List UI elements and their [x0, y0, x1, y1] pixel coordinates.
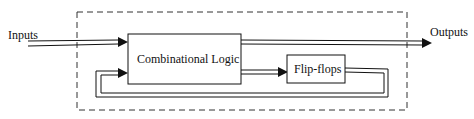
outputs-label: Outputs	[430, 25, 468, 39]
sequential-circuit-diagram: Inputs Combinational Logic Outputs Flip-…	[0, 0, 474, 119]
inputs-arrow	[28, 37, 128, 47]
system-boundary	[77, 12, 407, 110]
combinational-logic-label: Combinational Logic	[137, 52, 239, 66]
state-arrow	[241, 67, 288, 77]
flip-flops-label: Flip-flops	[294, 62, 342, 76]
outputs-arrow	[241, 38, 432, 48]
inputs-label: Inputs	[8, 28, 38, 42]
